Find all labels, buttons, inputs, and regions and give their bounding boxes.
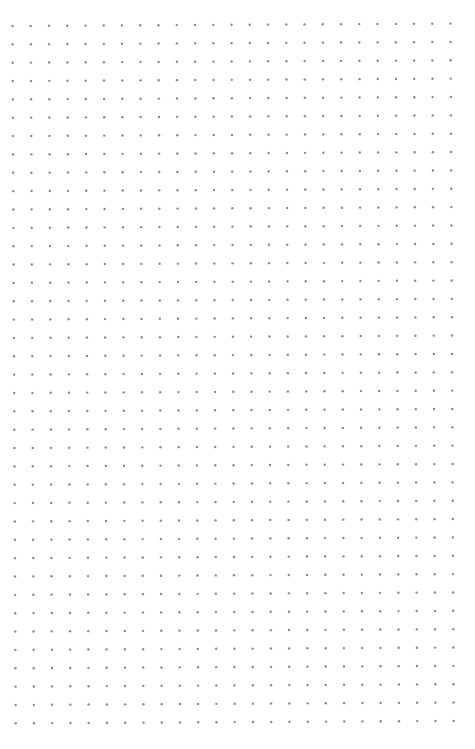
- grid-dot: [213, 189, 215, 191]
- grid-dot: [434, 646, 436, 648]
- grid-dot: [176, 134, 178, 136]
- grid-dot: [232, 317, 234, 319]
- grid-dot: [231, 225, 233, 227]
- grid-dot: [123, 428, 125, 430]
- grid-dot: [359, 188, 361, 190]
- grid-dot: [249, 134, 251, 136]
- grid-dot: [13, 318, 15, 320]
- grid-dot: [158, 134, 160, 136]
- grid-dot: [450, 133, 452, 135]
- grid-dot: [68, 447, 70, 449]
- grid-dot: [449, 59, 451, 61]
- grid-dot: [379, 573, 381, 575]
- grid-dot: [249, 24, 251, 26]
- grid-dot: [378, 408, 380, 410]
- grid-dot: [103, 79, 105, 81]
- grid-dot: [122, 373, 124, 375]
- grid-dot: [307, 721, 309, 723]
- grid-dot: [285, 60, 287, 62]
- grid-dot: [434, 628, 436, 630]
- grid-dot: [215, 611, 217, 613]
- grid-dot: [105, 483, 107, 485]
- grid-dot: [66, 98, 68, 100]
- grid-dot: [450, 96, 452, 98]
- grid-dot: [213, 207, 215, 209]
- grid-dot: [323, 243, 325, 245]
- grid-dot: [194, 152, 196, 154]
- grid-dot: [69, 667, 71, 669]
- grid-dot: [358, 60, 360, 62]
- grid-dot: [304, 280, 306, 282]
- grid-dot: [450, 169, 452, 171]
- grid-dot: [377, 188, 379, 190]
- grid-dot: [158, 226, 160, 228]
- grid-dot: [103, 43, 105, 45]
- grid-dot: [196, 519, 198, 521]
- grid-dot: [343, 684, 345, 686]
- grid-dot: [360, 445, 362, 447]
- grid-dot: [286, 280, 288, 282]
- grid-dot: [450, 77, 452, 79]
- grid-dot: [103, 24, 105, 26]
- grid-dot: [451, 408, 453, 410]
- grid-dot: [123, 446, 125, 448]
- grid-dot: [396, 243, 398, 245]
- grid-dot: [11, 62, 13, 64]
- grid-dot: [122, 189, 124, 191]
- grid-dot: [13, 447, 15, 449]
- grid-dot: [249, 152, 251, 154]
- grid-dot: [395, 225, 397, 227]
- paper-background: [0, 0, 475, 749]
- grid-dot: [197, 629, 199, 631]
- grid-dot: [287, 427, 289, 429]
- grid-dot: [434, 720, 436, 722]
- grid-dot: [215, 648, 217, 650]
- grid-dot: [67, 281, 69, 283]
- grid-dot: [178, 501, 180, 503]
- grid-dot: [397, 481, 399, 483]
- grid-dot: [196, 538, 198, 540]
- grid-dot: [213, 281, 215, 283]
- grid-dot: [176, 207, 178, 209]
- grid-dot: [178, 556, 180, 558]
- grid-dot: [123, 483, 125, 485]
- grid-dot: [431, 78, 433, 80]
- grid-dot: [141, 465, 143, 467]
- grid-dot: [395, 114, 397, 116]
- grid-dot: [231, 207, 233, 209]
- grid-dot: [250, 244, 252, 246]
- grid-dot: [359, 170, 361, 172]
- grid-dot: [341, 243, 343, 245]
- grid-dot: [251, 464, 253, 466]
- grid-dot: [416, 628, 418, 630]
- grid-dot: [158, 244, 160, 246]
- grid-dot: [268, 189, 270, 191]
- grid-dot: [179, 666, 181, 668]
- grid-dot: [324, 519, 326, 521]
- grid-dot: [121, 79, 123, 81]
- grid-dot: [322, 207, 324, 209]
- grid-dot: [343, 647, 345, 649]
- grid-dot: [142, 556, 144, 558]
- grid-dot: [12, 117, 14, 119]
- grid-dot: [87, 538, 89, 540]
- grid-dot: [48, 80, 50, 82]
- grid-dot: [452, 555, 454, 557]
- grid-dot: [359, 133, 361, 135]
- grid-dot: [413, 133, 415, 135]
- grid-dot: [323, 390, 325, 392]
- grid-dot: [450, 224, 452, 226]
- grid-dot: [157, 61, 159, 63]
- grid-dot: [142, 703, 144, 705]
- grid-dot: [177, 391, 179, 393]
- grid-dot: [322, 225, 324, 227]
- grid-dot: [85, 116, 87, 118]
- grid-dot: [86, 373, 88, 375]
- grid-dot: [249, 60, 251, 62]
- grid-dot: [214, 464, 216, 466]
- grid-dot: [123, 391, 125, 393]
- grid-dot: [324, 629, 326, 631]
- grid-dot: [86, 483, 88, 485]
- grid-dot: [377, 96, 379, 98]
- grid-dot: [140, 336, 142, 338]
